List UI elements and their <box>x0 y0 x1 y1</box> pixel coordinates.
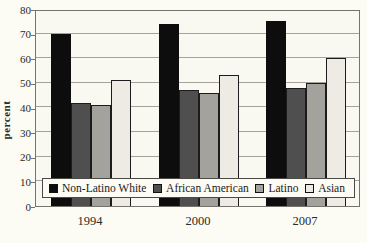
y-tick-mark-60 <box>31 59 35 60</box>
y-tick-mark-80 <box>31 10 35 11</box>
legend-item-african-american: African American <box>153 182 249 194</box>
y-tick-label-70: 70 <box>6 29 31 40</box>
y-tick-mark-0 <box>31 207 35 208</box>
y-tick-mark-20 <box>31 158 35 159</box>
legend-label: Latino <box>268 182 298 194</box>
y-axis-title: percent <box>0 90 12 150</box>
legend-swatch-icon <box>153 184 162 193</box>
y-tick-mark-70 <box>31 35 35 36</box>
y-tick-label-10: 10 <box>6 177 31 188</box>
y-tick-mark-30 <box>31 133 35 134</box>
legend-item-latino: Latino <box>255 182 298 194</box>
y-tick-mark-50 <box>31 84 35 85</box>
y-tick-mark-10 <box>31 182 35 183</box>
legend-label: African American <box>166 182 249 194</box>
gridline-60 <box>36 57 359 58</box>
gridline-70 <box>36 33 359 34</box>
x-tick-label-1994: 1994 <box>60 214 120 229</box>
legend-swatch-icon <box>305 184 314 193</box>
legend-item-asian: Asian <box>305 182 345 194</box>
legend: Non-Latino WhiteAfrican AmericanLatinoAs… <box>42 178 355 198</box>
y-tick-label-80: 80 <box>6 5 31 16</box>
bar-chart-figure: percent 01020304050607080 199420002007 N… <box>0 0 367 243</box>
y-tick-label-60: 60 <box>6 54 31 65</box>
legend-swatch-icon <box>49 184 58 193</box>
legend-swatch-icon <box>255 184 264 193</box>
y-tick-label-30: 30 <box>6 128 31 139</box>
x-tick-label-2000: 2000 <box>168 214 228 229</box>
legend-label: Non-Latino White <box>62 182 146 194</box>
y-tick-label-40: 40 <box>6 103 31 114</box>
legend-label: Asian <box>318 182 345 194</box>
y-tick-label-20: 20 <box>6 152 31 163</box>
y-tick-mark-40 <box>31 109 35 110</box>
legend-item-non-latino-white: Non-Latino White <box>49 182 146 194</box>
y-tick-label-0: 0 <box>6 202 31 213</box>
x-tick-label-2007: 2007 <box>275 214 335 229</box>
y-tick-label-50: 50 <box>6 78 31 89</box>
